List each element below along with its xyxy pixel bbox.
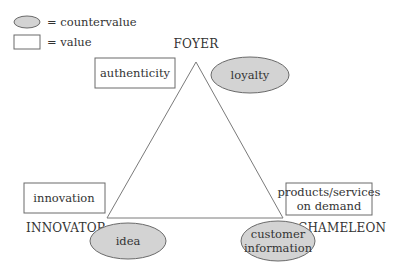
countervalue-label-line2: information — [244, 241, 313, 255]
value-label-line2: on demand — [297, 199, 362, 213]
legend: = countervalue = value — [14, 15, 137, 49]
vertex-label-foyer: FOYER — [174, 37, 220, 51]
legend-value-label: = value — [47, 35, 92, 49]
value-innovation: innovation — [24, 183, 105, 213]
countervalue-idea: idea — [90, 223, 166, 259]
countervalue-loyalty: loyalty — [211, 57, 289, 93]
legend-value-box-icon — [14, 35, 40, 49]
value-triangle-diagram: = countervalue = value FOYER authenticit… — [0, 0, 404, 274]
value-label: innovation — [33, 191, 95, 205]
legend-countervalue-label: = countervalue — [47, 15, 137, 29]
value-products-services: products/services on demand — [278, 183, 381, 215]
countervalue-label: loyalty — [231, 68, 270, 82]
legend-countervalue-oval-icon — [14, 16, 40, 28]
value-label-line1: products/services — [278, 185, 381, 199]
countervalue-label-line1: customer — [251, 227, 306, 241]
countervalue-customer-information: customer information — [241, 221, 315, 261]
value-label: authenticity — [100, 66, 171, 80]
countervalue-label: idea — [116, 234, 141, 248]
value-authenticity: authenticity — [95, 58, 175, 88]
